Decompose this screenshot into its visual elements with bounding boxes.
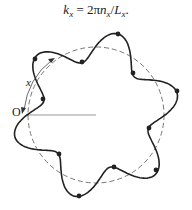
node-dot [41, 97, 46, 102]
node-dot [33, 57, 38, 62]
node-dot [80, 60, 85, 65]
node-dot [116, 32, 121, 37]
node-dot [57, 152, 62, 157]
arc-length-label: x [25, 76, 31, 88]
arrow-head-bottom-icon [21, 107, 26, 114]
origin-label: O [12, 105, 21, 119]
standing-wave-diagram: x O [0, 0, 192, 210]
node-dot [147, 126, 152, 131]
node-dot [175, 89, 180, 94]
node-dot [131, 71, 136, 76]
node-dot [112, 165, 117, 170]
node-dot [77, 194, 82, 199]
node-dot [154, 168, 159, 173]
